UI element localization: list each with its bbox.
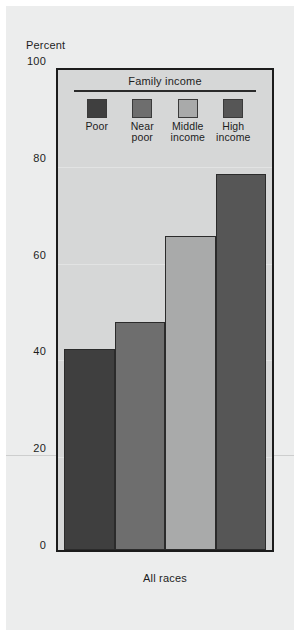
plot-inner: Family income PoorNearpoorMiddleincomeHi… [58, 70, 272, 550]
bar [216, 174, 267, 550]
plot-area: Family income PoorNearpoorMiddleincomeHi… [56, 68, 274, 552]
y-tick-label: 0 [14, 539, 46, 551]
bar [115, 322, 166, 550]
y-tick-label: 60 [14, 249, 46, 261]
y-tick-label: 100 [14, 55, 46, 67]
y-tick-label: 80 [14, 152, 46, 164]
bar [64, 349, 115, 550]
y-tick-label: 20 [14, 442, 46, 454]
figure-panel: Percent 100806040200 Family income PoorN… [6, 6, 294, 630]
bar [165, 236, 216, 550]
y-axis-title: Percent [26, 39, 65, 51]
bar-group [64, 70, 264, 550]
chart-screenshot: Percent 100806040200 Family income PoorN… [0, 0, 300, 636]
x-axis-label: All races [56, 572, 274, 584]
y-tick-label: 40 [14, 345, 46, 357]
